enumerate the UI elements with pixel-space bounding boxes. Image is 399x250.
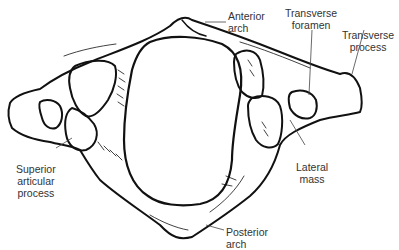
label-superior-articular-process: Superior articular process	[16, 163, 56, 199]
leader-posterior-arch	[206, 225, 224, 230]
label-transverse-process: Transverse process	[342, 29, 394, 53]
right-articular-facet-lower	[248, 96, 282, 147]
left-transverse-foramen	[39, 100, 62, 129]
label-lateral-mass: Lateral mass	[296, 161, 328, 185]
atlas-vertebra-illustration	[0, 0, 399, 250]
right-articular-facet-upper	[234, 51, 263, 98]
right-transverse-foramen	[289, 90, 317, 118]
vertebral-foramen	[124, 37, 241, 205]
label-anterior-arch: Anterior arch	[228, 10, 265, 34]
left-lower-facet	[65, 108, 97, 150]
label-transverse-foramen: Transverse foramen	[285, 7, 337, 31]
label-posterior-arch: Posterior arch	[226, 226, 268, 250]
left-articular-facet	[69, 61, 116, 117]
